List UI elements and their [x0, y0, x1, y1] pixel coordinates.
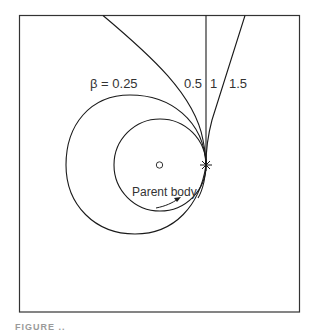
figure-frame	[20, 16, 300, 313]
figure-caption: FIGURE ..	[15, 322, 66, 332]
label-beta-0-25: β = 0.25	[90, 76, 138, 91]
trajectory-beta-0-25	[66, 95, 206, 234]
label-beta-0-5: 0.5	[184, 76, 202, 91]
label-parent-body: Parent body	[132, 185, 197, 199]
sun-marker	[156, 162, 162, 168]
ejection-point-star-icon	[200, 159, 212, 171]
orbit-direction-arrow	[156, 199, 178, 208]
label-beta-1-5: 1.5	[229, 76, 247, 91]
trajectory-beta-0-5	[103, 16, 206, 199]
label-beta-1: 1	[210, 76, 217, 91]
